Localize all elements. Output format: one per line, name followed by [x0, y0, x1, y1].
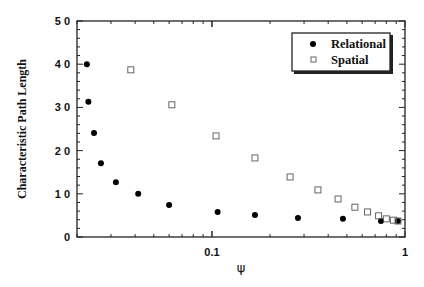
data-point — [215, 209, 221, 215]
data-point — [287, 174, 293, 180]
data-point — [84, 61, 90, 67]
y-tick-label: 2 0 — [55, 145, 70, 157]
y-tick-label: 5 0 — [55, 15, 70, 27]
data-series — [84, 61, 401, 224]
legend: Relational Spatial — [292, 33, 393, 74]
data-point — [166, 202, 172, 208]
data-point — [85, 99, 91, 105]
data-point — [383, 216, 389, 222]
x-axis-title: ψ — [237, 260, 246, 275]
data-point — [376, 213, 382, 219]
y-tick-label: 0 — [64, 231, 70, 243]
series-relational — [84, 61, 401, 224]
data-point — [98, 160, 104, 166]
data-point — [252, 155, 258, 161]
y-axis-title: Characteristic Path Length — [15, 59, 29, 199]
data-point — [352, 204, 358, 210]
data-point — [365, 209, 371, 215]
y-tick-label: 3 0 — [55, 101, 70, 113]
data-point — [169, 102, 175, 108]
y-axis-tick-labels: 01 02 03 04 05 0 — [55, 15, 70, 243]
legend-relational-label: Relational — [331, 37, 386, 51]
series-spatial — [128, 67, 401, 224]
x-axis-tick-labels: 0.11 — [204, 246, 408, 258]
data-point — [315, 187, 321, 193]
chart: 01 02 03 04 05 0 0.11 Characteristic Pat… — [0, 0, 424, 287]
y-tick-label: 1 0 — [55, 188, 70, 200]
data-point — [91, 130, 97, 136]
x-tick-label: 0.1 — [204, 246, 219, 258]
data-point — [252, 212, 258, 218]
data-point — [113, 179, 119, 185]
legend-spatial-label: Spatial — [331, 53, 369, 67]
y-tick-label: 4 0 — [55, 58, 70, 70]
data-point — [135, 191, 141, 197]
legend-relational-marker-icon — [310, 41, 316, 47]
data-point — [213, 133, 219, 139]
data-point — [335, 196, 341, 202]
data-point — [128, 67, 134, 73]
x-tick-label: 1 — [402, 246, 408, 258]
data-point — [340, 216, 346, 222]
data-point — [295, 215, 301, 221]
